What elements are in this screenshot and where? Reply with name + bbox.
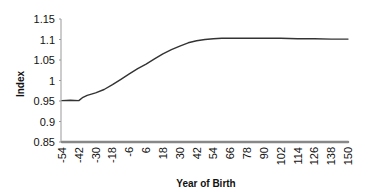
x-tick-label: 90	[258, 147, 270, 159]
x-tick-label: 6	[140, 147, 152, 153]
x-tick-label: 138	[325, 147, 337, 165]
y-axis: 0.850.90.9511.051.11.15	[34, 13, 61, 148]
index-line	[62, 38, 348, 100]
x-tick-label: 126	[308, 147, 320, 165]
series-group	[62, 38, 348, 142]
x-tick-label: 66	[224, 147, 236, 159]
x-axis-title: Year of Birth	[176, 178, 235, 189]
x-tick-label: -6	[123, 147, 135, 157]
x-tick-label: 42	[191, 147, 203, 159]
x-tick-label: 150	[342, 147, 354, 165]
x-tick-label: 30	[174, 147, 186, 159]
y-tick-label: 0.9	[40, 116, 55, 128]
x-tick-label: -54	[56, 147, 68, 163]
y-tick-label: 1.15	[34, 13, 55, 25]
x-tick-label: 114	[292, 147, 304, 165]
y-tick-label: 1.05	[34, 54, 55, 66]
y-tick-label: 1	[49, 75, 55, 87]
y-tick-label: 0.95	[34, 95, 55, 107]
x-tick-label: -42	[73, 147, 85, 163]
x-tick-label: -30	[90, 147, 102, 163]
x-tick-label: 102	[275, 147, 287, 165]
x-tick-label: 18	[157, 147, 169, 159]
x-tick-label: 78	[241, 147, 253, 159]
y-tick-label: 1.1	[40, 34, 55, 46]
line-chart: 0.850.90.9511.051.11.15 -54-42-30-18-661…	[0, 0, 368, 196]
x-axis: -54-42-30-18-661830425466789010211412613…	[56, 147, 354, 165]
y-axis-title: Index	[15, 71, 26, 98]
x-tick-label: 54	[207, 147, 219, 159]
x-tick-label: -18	[106, 147, 118, 163]
y-tick-label: 0.85	[34, 136, 55, 148]
